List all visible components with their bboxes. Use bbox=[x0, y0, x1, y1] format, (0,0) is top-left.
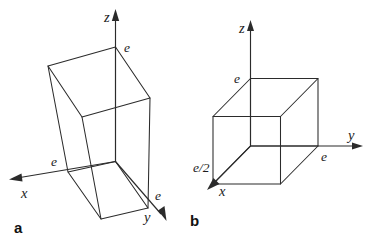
panel-a-top-face bbox=[48, 47, 150, 117]
panel-b-x-intercept-label: e/2 bbox=[193, 160, 210, 175]
panel-a-z-intercept-label: e bbox=[124, 40, 130, 55]
panel-b-x-axis-label: x bbox=[218, 183, 226, 199]
panel-b-connector-bottom-left bbox=[213, 146, 251, 184]
panel-b-z-intercept-label: e bbox=[234, 71, 240, 86]
panel-a-x-intercept-label: e bbox=[51, 154, 57, 169]
panel-a-z-axis-arrowhead bbox=[112, 9, 119, 21]
panel-a-x-axis-label: x bbox=[20, 185, 28, 201]
panel-b-connector-bottom-right bbox=[281, 146, 319, 184]
panel-b-caption: b bbox=[190, 212, 199, 229]
panel-b-y-axis-label: y bbox=[346, 127, 355, 143]
panel-b-z-axis-label: z bbox=[238, 20, 245, 36]
panel-a-z-axis-label: z bbox=[103, 9, 110, 25]
panel-a-bottom-face bbox=[68, 162, 148, 220]
panel-a: e e e z x y a bbox=[9, 9, 167, 236]
panel-b: e e e/2 z y x b bbox=[190, 20, 363, 229]
panel-a-y-axis-label: y bbox=[142, 209, 151, 225]
panel-b-z-axis-arrowhead bbox=[247, 20, 254, 31]
panel-b-connector-top-right bbox=[281, 79, 319, 117]
panel-b-connector-top-left bbox=[213, 79, 251, 117]
panel-a-y-intercept-label: e bbox=[155, 188, 161, 203]
panel-a-vertical-edge-front-right bbox=[148, 98, 150, 208]
panel-a-y-axis-arrowhead bbox=[158, 206, 167, 221]
panel-a-caption: a bbox=[14, 219, 23, 236]
panel-b-y-intercept-label: e bbox=[321, 149, 327, 164]
panel-b-y-axis-arrowhead bbox=[352, 143, 363, 150]
crystal-unit-cells-svg: e e e z x y a bbox=[0, 0, 379, 247]
figure-root: e e e z x y a bbox=[0, 0, 379, 247]
panel-a-x-axis-arrowhead bbox=[9, 174, 23, 182]
